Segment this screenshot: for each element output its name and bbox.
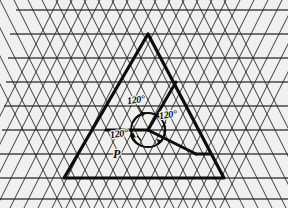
figure-container: 120° 120° 120° P [0,0,288,208]
lattice-diagram [0,0,288,208]
